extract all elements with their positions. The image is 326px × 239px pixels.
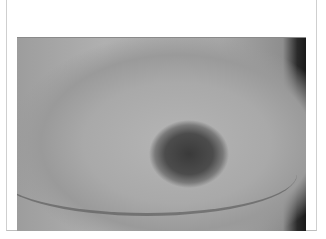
skin-fold xyxy=(17,133,297,216)
clinical-photograph xyxy=(17,37,306,231)
